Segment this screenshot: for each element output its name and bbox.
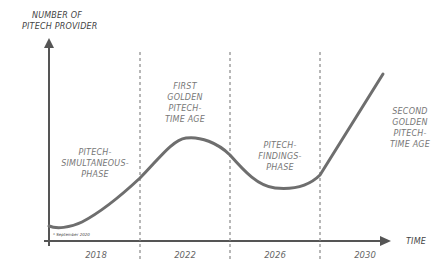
phase-label-line: GOLDEN (150, 92, 220, 103)
footnote: * September 2020 (53, 232, 90, 237)
phase-label-simultaneous: PITECH- SIMULTANEOUS- PHASE (50, 147, 140, 180)
phase-label-line: TIME AGE (150, 114, 220, 125)
phase-label-line: PITECH- (250, 140, 310, 151)
phase-label-line: PITECH- (50, 147, 140, 158)
phase-label-line: SIMULTANEOUS- (50, 158, 140, 169)
y-axis-title-line-2: PITECH PROVIDER (22, 21, 98, 32)
phase-label-line: PITECH- (380, 128, 440, 139)
phase-label-line: TIME AGE (380, 139, 440, 150)
phase-label-line: FIRST (150, 81, 220, 92)
phase-label-line: FINDINGS- (250, 151, 310, 162)
x-axis-arrow-icon (380, 236, 391, 246)
x-tick-2030: 2030 (345, 250, 385, 260)
x-axis-title: TIME (406, 236, 426, 247)
x-tick-2022: 2022 (165, 250, 205, 260)
phase-label-first-golden-age: FIRST GOLDEN PITECH- TIME AGE (150, 81, 220, 125)
y-axis-title: NUMBER OF PITECH PROVIDER (22, 10, 98, 32)
phase-label-second-golden-age: SECOND GOLDEN PITECH- TIME AGE (380, 106, 440, 150)
x-tick-2018: 2018 (76, 250, 116, 260)
phase-label-findings: PITECH- FINDINGS- PHASE (250, 140, 310, 173)
phase-label-line: PHASE (250, 162, 310, 173)
phase-label-line: GOLDEN (380, 117, 440, 128)
phase-label-line: PITECH- (150, 103, 220, 114)
phase-label-line: PHASE (50, 169, 140, 180)
phase-label-line: SECOND (380, 106, 440, 117)
y-axis-arrow-icon (44, 38, 54, 48)
y-axis-title-line-1: NUMBER OF (22, 10, 98, 21)
x-tick-2026: 2026 (255, 250, 295, 260)
